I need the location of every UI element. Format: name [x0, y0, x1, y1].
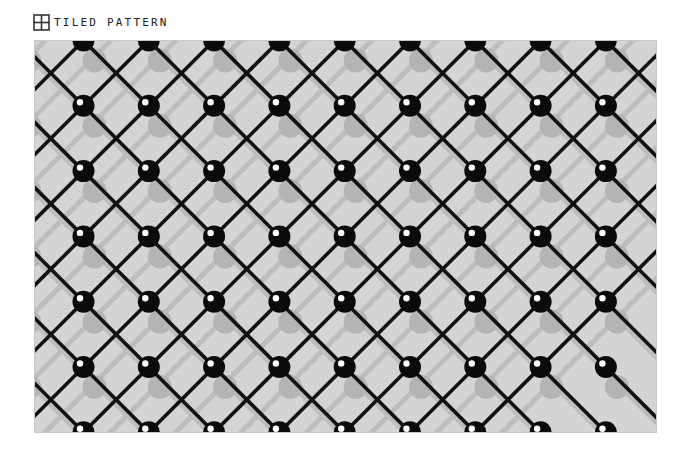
pattern-header: TILED PATTERN: [33, 13, 169, 31]
page-title: TILED PATTERN: [54, 16, 169, 29]
grid-square-icon: [33, 14, 50, 31]
tiled-pattern-canvas: [34, 40, 657, 433]
pattern-graphic: [34, 40, 657, 433]
